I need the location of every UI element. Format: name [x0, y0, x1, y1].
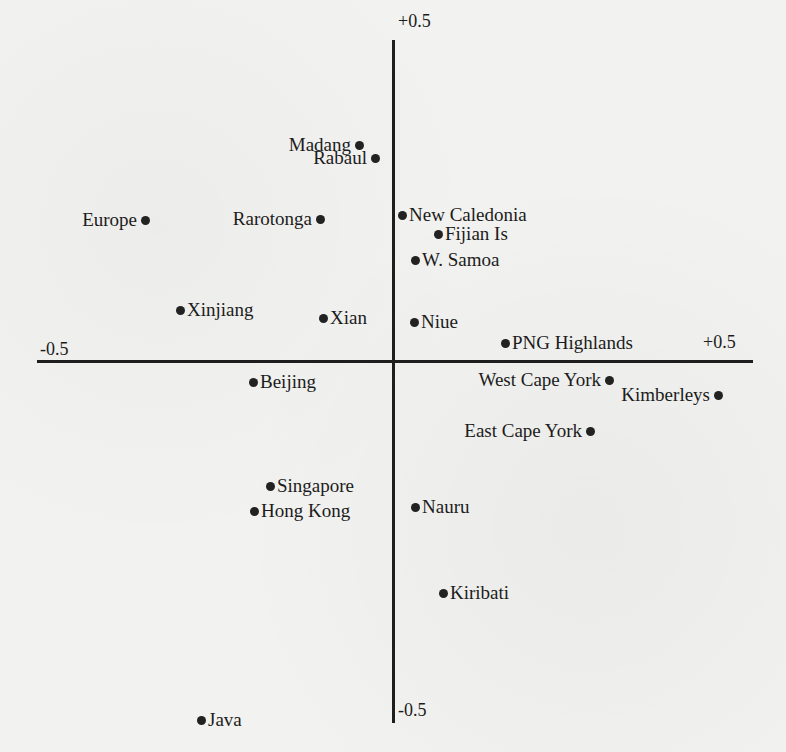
point-marker-icon [249, 378, 258, 387]
point-marker-icon [411, 503, 420, 512]
point-label: Singapore [277, 476, 354, 495]
point-label: West Cape York [479, 370, 602, 389]
point-marker-icon [266, 482, 275, 491]
x-axis-line [37, 360, 753, 363]
point-label: Beijing [260, 372, 316, 391]
point-label: Hong Kong [261, 501, 350, 520]
point-marker-icon [316, 215, 325, 224]
point-marker-icon [501, 339, 510, 348]
point-label: PNG Highlands [512, 333, 633, 352]
point-label: Xinjiang [187, 300, 254, 319]
point-marker-icon [319, 314, 328, 323]
point-marker-icon [439, 589, 448, 598]
point-label: Kiribati [450, 583, 509, 602]
point-marker-icon [714, 391, 723, 400]
point-marker-icon [371, 154, 380, 163]
point-marker-icon [250, 507, 259, 516]
point-label: Niue [421, 312, 458, 331]
point-label: New Caledonia [409, 205, 527, 224]
point-label: Europe [82, 210, 137, 229]
point-label: Xian [330, 308, 367, 327]
y-axis-max-label: +0.5 [398, 12, 431, 30]
point-marker-icon [398, 211, 407, 220]
point-label: Rarotonga [233, 209, 312, 228]
point-label: Fijian Is [445, 224, 508, 243]
x-axis-min-label: -0.5 [40, 340, 69, 358]
point-label: Java [208, 710, 242, 729]
point-marker-icon [197, 716, 206, 725]
point-label: Kimberleys [621, 385, 710, 404]
scatter-plot: +0.5 -0.5 -0.5 +0.5 MadangRabaulEuropeRa… [0, 0, 786, 752]
point-marker-icon [176, 306, 185, 315]
point-marker-icon [411, 256, 420, 265]
point-marker-icon [605, 376, 614, 385]
point-marker-icon [434, 230, 443, 239]
y-axis-min-label: -0.5 [398, 701, 427, 719]
point-label: Rabaul [313, 148, 367, 167]
point-marker-icon [586, 427, 595, 436]
point-label: East Cape York [464, 421, 582, 440]
y-axis-line [392, 40, 395, 723]
point-label: W. Samoa [422, 250, 499, 269]
point-marker-icon [410, 318, 419, 327]
x-axis-max-label: +0.5 [703, 333, 736, 351]
point-marker-icon [141, 216, 150, 225]
point-label: Nauru [422, 497, 469, 516]
